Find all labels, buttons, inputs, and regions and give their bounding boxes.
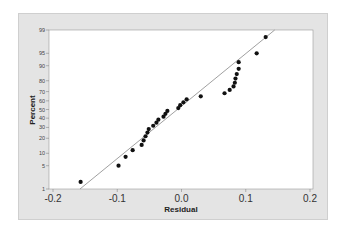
y-tick-label: 60 (39, 98, 45, 104)
y-tick-label: 50 (39, 107, 45, 113)
data-point (131, 148, 135, 152)
plot-area (49, 30, 313, 189)
data-point (237, 67, 241, 71)
y-tick-label: 40 (39, 115, 45, 121)
y-tick-label: 5 (42, 163, 45, 169)
data-point (237, 60, 241, 64)
data-point (116, 164, 120, 168)
y-tick-label: 30 (39, 124, 45, 130)
data-point (141, 138, 145, 142)
y-tick-label: 90 (39, 63, 45, 69)
data-point (255, 51, 259, 55)
data-point (181, 100, 185, 104)
data-point (199, 94, 203, 98)
y-tick-label: 95 (39, 50, 45, 56)
data-point (124, 155, 128, 159)
data-point (222, 91, 226, 95)
x-tick-label: 0.2 (303, 193, 317, 204)
y-tick-label: 20 (39, 135, 45, 141)
y-axis-title: Percent (28, 95, 37, 125)
x-axis: -0.2-0.10.00.10.2 (44, 189, 317, 204)
x-tick-label: 0.1 (239, 193, 253, 204)
data-point (235, 72, 239, 76)
y-tick-label: 70 (39, 89, 45, 95)
data-point (178, 103, 182, 107)
data-point (165, 109, 169, 113)
probability-plot: 151020304050607080909599 -0.2-0.10.00.10… (0, 0, 344, 236)
y-axis: 151020304050607080909599 (39, 27, 49, 192)
data-point (264, 35, 268, 39)
data-point (140, 143, 144, 147)
x-tick-label: 0.0 (175, 193, 189, 204)
data-point (147, 127, 151, 131)
y-tick-label: 10 (39, 150, 45, 156)
data-point (233, 77, 237, 81)
data-point (185, 97, 189, 101)
data-point (79, 180, 83, 184)
data-point (233, 81, 237, 85)
x-tick-label: -0.1 (109, 193, 127, 204)
data-point (228, 88, 232, 92)
data-point (151, 124, 155, 128)
y-tick-label: 99 (39, 27, 45, 33)
data-point (143, 134, 147, 138)
data-point (156, 118, 160, 122)
y-tick-label: 1 (42, 186, 45, 192)
y-tick-label: 80 (39, 78, 45, 84)
data-point (231, 84, 235, 88)
x-axis-title: Residual (164, 205, 197, 214)
x-tick-label: -0.2 (44, 193, 62, 204)
